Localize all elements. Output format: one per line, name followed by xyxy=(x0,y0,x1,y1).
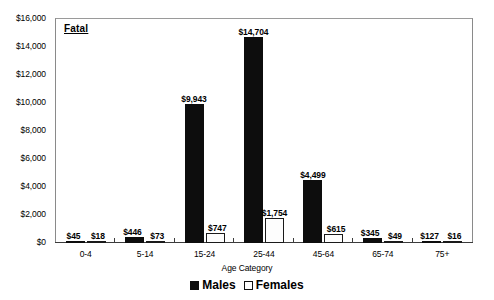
bar-group: $9,943$747 xyxy=(175,19,234,243)
x-axis-tick-labels: 0-45-1415-2425-4445-6465-7475+ xyxy=(56,249,472,261)
bar-value-label: $18 xyxy=(91,232,105,241)
legend-label-males: Males xyxy=(202,278,235,292)
y-axis-tick-label: $6,000 xyxy=(21,154,46,163)
x-axis-tick-label: 15-24 xyxy=(175,249,234,259)
x-axis-tick-label: 25-44 xyxy=(234,249,293,259)
legend-label-females: Females xyxy=(256,278,304,292)
bar-males[interactable]: $45 xyxy=(66,241,85,243)
bar-value-label: $446 xyxy=(123,228,142,237)
y-axis-tick-label: $10,000 xyxy=(16,98,46,107)
y-axis-tick-label: $8,000 xyxy=(21,126,46,135)
legend-item-females[interactable]: Females xyxy=(244,278,304,292)
bar-females[interactable]: $1,754 xyxy=(265,218,284,243)
x-axis-tick-label: 45-64 xyxy=(294,249,353,259)
bar-group: $45$18 xyxy=(56,19,115,243)
bar-females[interactable]: $73 xyxy=(146,241,165,243)
bar-value-label: $9,943 xyxy=(181,95,206,104)
bar-value-label: $615 xyxy=(327,225,346,234)
bar-males[interactable]: $446 xyxy=(125,237,144,243)
bar-value-label: $1,754 xyxy=(262,209,287,218)
x-axis-tick-label: 0-4 xyxy=(56,249,115,259)
bar-males[interactable]: $9,943 xyxy=(185,104,204,243)
chart-legend: Males Females xyxy=(0,278,494,292)
bar-males[interactable]: $345 xyxy=(363,238,382,243)
y-axis-tick-label: $16,000 xyxy=(16,14,46,23)
y-axis-tick-label: $4,000 xyxy=(21,182,46,191)
bar-chart: $0$2,000$4,000$6,000$8,000$10,000$12,000… xyxy=(0,0,494,300)
bar-males[interactable]: $4,499 xyxy=(303,180,322,243)
legend-swatch-males-icon xyxy=(190,281,199,290)
x-axis-title: Age Category xyxy=(0,263,494,273)
bar-females[interactable]: $49 xyxy=(384,241,403,243)
bar-females[interactable]: $747 xyxy=(206,233,225,243)
bar-value-label: $345 xyxy=(361,229,380,238)
bar-value-label: $747 xyxy=(208,224,227,233)
y-axis-tick-label: $2,000 xyxy=(21,210,46,219)
bar-value-label: $45 xyxy=(67,232,81,241)
bar-group: $446$73 xyxy=(115,19,174,243)
bar-group: $127$16 xyxy=(413,19,472,243)
x-axis-tick-label: 75+ xyxy=(413,249,472,259)
bar-males[interactable]: $127 xyxy=(422,241,441,243)
x-axis-tick-label: 5-14 xyxy=(115,249,174,259)
y-axis-tick-label: $12,000 xyxy=(16,70,46,79)
legend-item-males[interactable]: Males xyxy=(190,278,235,292)
bar-value-label: $73 xyxy=(150,232,164,241)
bar-females[interactable]: $18 xyxy=(87,241,106,243)
bar-value-label: $49 xyxy=(388,232,402,241)
y-axis-tick-label: $14,000 xyxy=(16,42,46,51)
bar-value-label: $14,704 xyxy=(238,28,268,37)
bar-value-label: $4,499 xyxy=(300,171,325,180)
bar-value-label: $127 xyxy=(420,232,439,241)
legend-swatch-females-icon xyxy=(244,281,253,290)
x-axis-tick-label: 65-74 xyxy=(353,249,412,259)
bar-value-label: $16 xyxy=(447,232,461,241)
bar-females[interactable]: $615 xyxy=(324,234,343,243)
y-axis: $0$2,000$4,000$6,000$8,000$10,000$12,000… xyxy=(0,12,50,248)
bar-females[interactable]: $16 xyxy=(443,241,462,243)
plot-area: $45$18$446$73$9,943$747$14,704$1,754$4,4… xyxy=(56,19,472,243)
bar-males[interactable]: $14,704 xyxy=(244,37,263,243)
bar-group: $345$49 xyxy=(353,19,412,243)
bar-group: $4,499$615 xyxy=(294,19,353,243)
y-axis-tick-label: $0 xyxy=(37,238,46,247)
bar-group: $14,704$1,754 xyxy=(234,19,293,243)
